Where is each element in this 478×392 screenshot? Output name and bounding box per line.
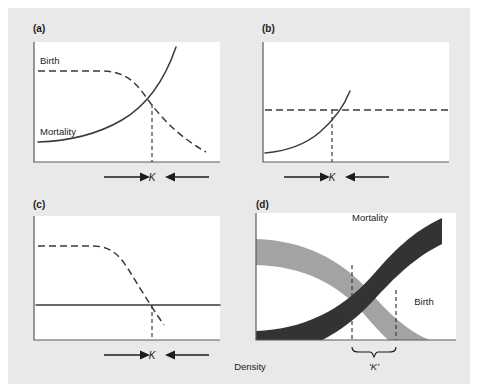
panel-d-k-brace (352, 347, 396, 357)
panel-a-plot-area (34, 42, 220, 162)
panel-d-label: (d) (256, 199, 269, 210)
panel-a: (a) Birth Mortality K (33, 23, 220, 183)
panel-a-k-label: K (149, 172, 157, 183)
panel-c-k-label: K (149, 350, 157, 361)
x-axis-label: Density (234, 361, 266, 372)
figure-panels: (a) Birth Mortality K (b) (0, 0, 478, 392)
panel-a-arrows (104, 173, 209, 182)
panel-c-arrows (104, 351, 209, 360)
panel-d-k-label: 'K' (369, 361, 380, 372)
panel-d-mortality-label: Mortality (352, 212, 388, 223)
panel-a-birth-label: Birth (40, 55, 60, 66)
panel-b-arrows (284, 173, 389, 182)
figure-container: (a) Birth Mortality K (b) (0, 0, 478, 392)
panel-a-label: (a) (33, 23, 45, 34)
panel-b-arrow-left-head (345, 173, 355, 182)
panel-c-arrow-left-head (165, 351, 175, 360)
panel-b: (b) K (262, 23, 449, 183)
panel-c: (c) K (33, 199, 220, 361)
panel-c-label: (c) (33, 199, 45, 210)
panel-a-mortality-label: Mortality (40, 126, 76, 137)
panel-b-label: (b) (262, 23, 275, 34)
panel-d: (d) Mortality Birth 'K' (250, 199, 456, 372)
panel-b-k-label: K (329, 172, 337, 183)
panel-d-birth-label: Birth (414, 296, 434, 307)
panel-a-arrow-left-head (165, 173, 175, 182)
panel-c-plot-area (34, 216, 220, 340)
panel-b-plot-area (263, 42, 449, 162)
